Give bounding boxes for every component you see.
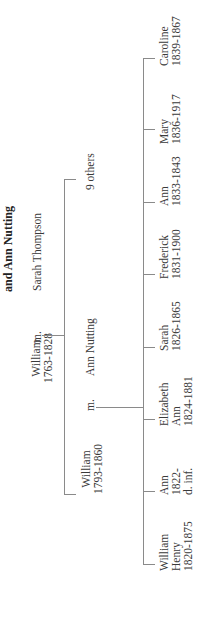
child-3: Elizabeth Ann 1824-1881 [158, 376, 194, 426]
gen1-marriage-label: m. [31, 331, 43, 343]
child-4: Sarah 1826-1865 [158, 301, 182, 351]
child-stub-3 [143, 419, 155, 420]
child-stub-7 [143, 129, 155, 130]
child-2-line1: Ann [158, 468, 170, 495]
child-stub-6 [143, 202, 155, 203]
child-7: Mary 1836-1917 [158, 94, 182, 144]
child-2: Ann 1822- d. inf. [158, 468, 194, 495]
child-5: Frederick 1831-1900 [158, 229, 182, 279]
child-stub-4 [143, 347, 155, 348]
gen2-marriage-label: m. [84, 399, 96, 411]
child-4-line2: 1826-1865 [170, 301, 182, 351]
child-4-line1: Sarah [158, 301, 170, 351]
gen2-stub-others [64, 179, 76, 180]
gen2-stub-william [64, 494, 76, 495]
gen2-sibling-bracket [64, 180, 65, 495]
gen2-siblings-note: 9 others [84, 153, 96, 190]
child-stub-8 [143, 58, 155, 59]
gen2-person-name: William [80, 441, 92, 497]
gen1-person-dates: 1763-1828 [42, 333, 54, 383]
diagram-title: and Ann Nutting [2, 187, 14, 311]
gen1-descent-line [42, 335, 64, 336]
child-1-line1: William [158, 521, 170, 571]
child-6-line2: 1833-1843 [170, 156, 182, 206]
child-stub-5 [143, 274, 155, 275]
children-bracket [143, 58, 144, 565]
gen2-descent-line [96, 407, 143, 408]
gen1-spouse: Sarah Thompson [31, 213, 43, 291]
child-5-line2: 1831-1900 [170, 229, 182, 279]
child-7-line1: Mary [158, 94, 170, 144]
child-3-line3: 1824-1881 [182, 376, 194, 426]
child-1-line2: Henry [170, 521, 182, 571]
gen2-spouse: Ann Nutting [84, 318, 96, 376]
child-8-line1: Caroline [158, 16, 170, 66]
child-6: Ann 1833-1843 [158, 156, 182, 206]
family-tree-diagram: and Ann Nutting William 1763-1828 m. Sar… [0, 0, 213, 631]
child-2-line2: 1822- [170, 468, 182, 495]
child-1-line3: 1820-1875 [182, 521, 194, 571]
child-6-line1: Ann [158, 156, 170, 206]
child-5-line1: Frederick [158, 229, 170, 279]
gen2-person: William 1793-1860 [80, 441, 104, 497]
child-7-line2: 1836-1917 [170, 94, 182, 144]
child-8: Caroline 1839-1867 [158, 16, 182, 66]
child-stub-2 [143, 491, 155, 492]
child-3-line2: Ann [170, 376, 182, 426]
child-stub-1 [143, 564, 155, 565]
child-3-line1: Elizabeth [158, 376, 170, 426]
child-8-line2: 1839-1867 [170, 16, 182, 66]
child-1: William Henry 1820-1875 [158, 521, 194, 571]
gen2-person-dates: 1793-1860 [92, 441, 104, 497]
child-2-line3: d. inf. [182, 468, 194, 495]
